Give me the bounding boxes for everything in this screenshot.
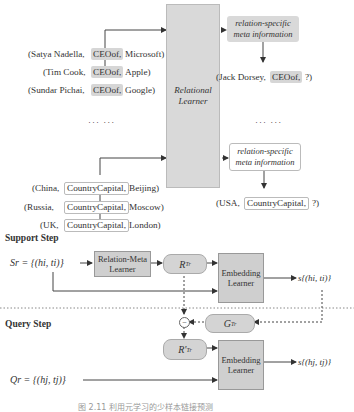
updated-relation-meta-box: R'Tr: [163, 339, 207, 360]
relation-tag: CEOof,: [91, 84, 123, 96]
embedding-learner-box-query: Embedding Learner: [218, 340, 264, 390]
r-prime-subscript: Tr: [186, 347, 191, 353]
r-subscript: Tr: [185, 261, 190, 267]
g-symbol: G: [224, 318, 231, 329]
triple-head: (Satya Nadella,: [28, 49, 85, 59]
support-score-label: s{(hi, ti)}: [298, 273, 331, 283]
relation-tag: CountryCapital,: [244, 197, 309, 210]
query-step-title: Query Step: [5, 319, 51, 329]
triple-head: (USA,: [216, 198, 240, 208]
query-set-label: Qr = {(hj, tj)}: [10, 374, 66, 385]
ellipsis: ··· ···: [88, 117, 115, 127]
triple-tail: Moscow): [129, 202, 164, 212]
triple-head: (Sundar Pichai,: [28, 85, 85, 95]
relation-tag: CEOof,: [91, 48, 123, 60]
triple-tail: Apple): [125, 67, 151, 77]
ellipsis: ··· ···: [255, 117, 282, 127]
triple-tail: Microsoft): [125, 49, 164, 59]
relation-tag: CountryCapital,: [64, 219, 129, 232]
triple-tail: Google): [125, 85, 155, 95]
triple-head: (Tim Cook,: [43, 67, 86, 77]
triple-tail: London): [129, 220, 161, 230]
triple-head: (UK,: [40, 220, 59, 230]
r-prime-symbol: R': [178, 344, 186, 355]
relation-tag: CountryCapital,: [64, 182, 129, 195]
figure-caption: 图 2.11 利用元学习的少样本链接预测: [78, 401, 213, 412]
support-step-title: Support Step: [5, 233, 59, 243]
meta-information-box: relation-specific meta information: [227, 16, 299, 42]
triple-tail: Beijing): [129, 183, 159, 193]
g-subscript: Tr: [231, 321, 236, 327]
relation-tag: CEOof,: [91, 66, 123, 78]
relation-tag: CEOof,: [270, 71, 302, 83]
triple-tail: ?): [312, 198, 319, 208]
gradient-g-box: GTr: [205, 314, 255, 333]
support-set-label: Sr = {(hi, ti)}: [10, 257, 64, 268]
embedding-learner-box-support: Embedding Learner: [218, 253, 264, 303]
triple-head: (China,: [32, 183, 59, 193]
triple-head: (Russia,: [24, 202, 54, 212]
triple-tail: ?): [305, 72, 312, 82]
triple-head: (Jack Dorsey,: [216, 72, 266, 82]
relation-tag: CountryCapital,: [64, 201, 129, 214]
minus-operator-icon: −: [179, 317, 190, 328]
relation-meta-r-box: RTr: [163, 254, 207, 274]
relational-learner-box: Relational Learner: [166, 4, 220, 188]
query-score-label: s{(hj, tj)}: [298, 357, 331, 367]
relation-meta-learner-box: Relation-Meta Learner: [94, 251, 151, 277]
meta-information-box: relation-specific meta information: [229, 143, 301, 171]
